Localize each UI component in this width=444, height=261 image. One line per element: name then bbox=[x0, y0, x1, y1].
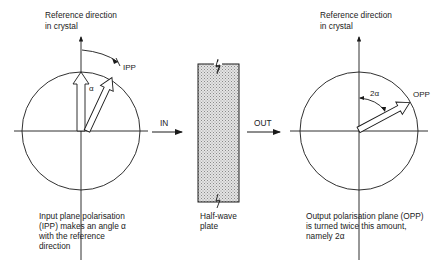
left-caption-line1: Input plane polarisation bbox=[39, 211, 125, 222]
left-caption-line4: direction bbox=[39, 241, 70, 252]
ipp-label: IPP bbox=[123, 63, 136, 74]
left-reference-label-line1: Reference direction bbox=[45, 10, 117, 21]
in-label: IN bbox=[160, 118, 168, 129]
right-reference-label-line1: Reference direction bbox=[320, 10, 392, 21]
right-caption-line1: Output polarisation plane (OPP) bbox=[306, 211, 424, 222]
half-wave-plate-section bbox=[152, 59, 280, 208]
plate-label-line2: plate bbox=[200, 221, 218, 232]
left-caption-line2: (IPP) makes an angle α bbox=[39, 221, 126, 232]
left-caption-line3: with the reference bbox=[39, 231, 105, 242]
ipp-angle-arc bbox=[82, 50, 118, 62]
half-wave-plate bbox=[198, 64, 239, 202]
reference-hollow-arrow-icon bbox=[73, 72, 89, 131]
right-caption-line3: namely 2α bbox=[306, 231, 344, 242]
two-alpha-angle-label: 2α bbox=[370, 89, 379, 100]
alpha-angle-label: α bbox=[89, 84, 94, 95]
plate-label-line1: Half-wave bbox=[200, 211, 237, 222]
right-caption-line2: is turned twice this amount, bbox=[306, 221, 407, 232]
right-reference-label-line2: in crystal bbox=[320, 21, 353, 32]
opp-label: OPP bbox=[413, 90, 430, 101]
opp-hollow-arrow-icon bbox=[355, 96, 413, 136]
out-label: OUT bbox=[254, 118, 272, 129]
left-reference-label-line2: in crystal bbox=[45, 21, 78, 32]
